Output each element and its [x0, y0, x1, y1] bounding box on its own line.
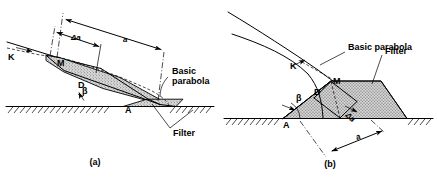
- label-basic-parabola-line2-a: parabola: [172, 76, 211, 86]
- label-point-m-a: M: [57, 58, 65, 68]
- caption-panel-b: (b): [324, 159, 336, 169]
- label-basic-parabola-line1-a: Basic: [172, 66, 196, 76]
- label-point-a-b: A: [283, 120, 290, 130]
- label-angle-beta-a: β: [82, 86, 88, 96]
- label-filter-a: Filter: [173, 128, 196, 138]
- label-dim-delta-a-a: Δa: [70, 33, 81, 42]
- label-filter-b: Filter: [385, 46, 408, 56]
- label-point-a-a: A: [125, 105, 132, 115]
- label-point-m-b: M: [333, 76, 341, 86]
- figure-container: K M D A β a Δa Basic parabola Filter (a): [0, 0, 437, 178]
- label-point-k-b: K: [290, 61, 297, 71]
- label-dim-a-a: a: [123, 35, 128, 44]
- caption-panel-a: (a): [90, 157, 101, 167]
- label-angle-beta-b: β: [296, 93, 302, 103]
- label-point-k-a: K: [8, 52, 15, 62]
- label-point-d-b: D: [314, 87, 321, 97]
